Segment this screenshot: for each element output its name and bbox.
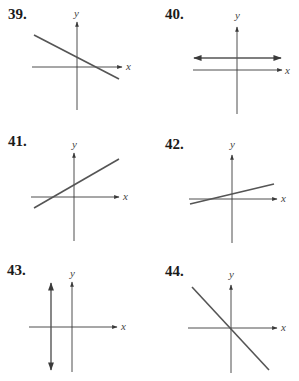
graph-40: x y — [193, 9, 290, 114]
x-axis-label: x — [280, 192, 286, 204]
graph-43: x y — [29, 267, 126, 372]
y-axis-label: y — [229, 138, 235, 150]
y-axis-label: y — [228, 268, 234, 280]
x-axis-label: x — [284, 64, 290, 76]
x-axis-label: x — [120, 320, 126, 332]
graph-44: x y — [188, 268, 286, 373]
graph-line — [34, 159, 119, 208]
y-axis-label: y — [69, 267, 75, 279]
graphs-canvas: x y x y x y x y x y x y — [0, 0, 299, 381]
x-axis-label: x — [122, 190, 128, 202]
y-axis-label: y — [71, 138, 77, 150]
graph-line — [192, 287, 269, 370]
graph-39: x y — [32, 7, 131, 110]
y-axis-label: y — [73, 7, 79, 19]
y-axis-label: y — [234, 9, 240, 21]
x-axis-label: x — [280, 321, 286, 333]
x-axis-label: x — [125, 60, 131, 72]
graph-41: x y — [31, 138, 128, 241]
graph-42: x y — [189, 138, 286, 243]
graph-line — [34, 35, 119, 79]
